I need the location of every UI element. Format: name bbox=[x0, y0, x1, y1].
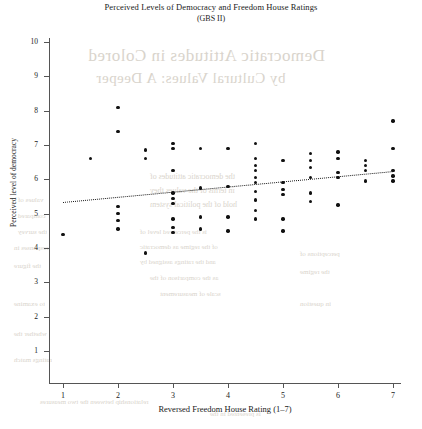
x-tick-label: 1 bbox=[51, 391, 75, 400]
data-point bbox=[336, 171, 339, 174]
data-point bbox=[336, 150, 339, 153]
plot-area bbox=[49, 38, 401, 383]
y-tick-label: 10 bbox=[4, 37, 38, 46]
data-point bbox=[199, 215, 202, 218]
data-point bbox=[364, 179, 367, 182]
data-point bbox=[116, 106, 119, 109]
data-point bbox=[144, 148, 147, 151]
data-point bbox=[199, 186, 202, 189]
x-tick-mark bbox=[173, 383, 174, 388]
ghost-left-6: to examine bbox=[14, 300, 45, 308]
y-tick-label: 9 bbox=[4, 71, 38, 80]
x-axis-line bbox=[49, 383, 401, 384]
chart-title: Perceived Levels of Democracy and Freedo… bbox=[0, 2, 422, 12]
y-tick-label: 3 bbox=[4, 277, 38, 286]
ghost-left-1: values of bbox=[18, 196, 43, 204]
data-point bbox=[171, 202, 174, 205]
x-tick-mark bbox=[283, 383, 284, 388]
ghost-left-7: whether the bbox=[14, 330, 47, 338]
x-tick-label: 4 bbox=[216, 391, 240, 400]
data-point bbox=[254, 209, 257, 212]
data-point bbox=[171, 147, 174, 150]
data-point bbox=[199, 227, 202, 230]
data-point bbox=[226, 147, 229, 150]
data-point bbox=[309, 191, 312, 194]
x-tick-mark bbox=[338, 383, 339, 388]
data-point bbox=[116, 227, 119, 230]
data-point bbox=[116, 130, 119, 133]
data-point bbox=[171, 217, 174, 220]
chart-subtitle: (GBS II) bbox=[0, 14, 422, 23]
data-point bbox=[281, 217, 284, 220]
y-tick-label: 2 bbox=[4, 312, 38, 321]
data-point bbox=[171, 226, 174, 229]
data-point bbox=[281, 159, 284, 162]
data-point bbox=[226, 185, 229, 188]
data-point bbox=[226, 215, 229, 218]
data-point bbox=[226, 229, 229, 232]
data-point bbox=[281, 229, 284, 232]
data-point bbox=[391, 147, 394, 150]
data-point bbox=[336, 176, 339, 179]
data-point bbox=[144, 251, 147, 254]
x-tick-label: 5 bbox=[271, 391, 295, 400]
data-point bbox=[116, 212, 119, 215]
x-tick-mark bbox=[228, 383, 229, 388]
data-point bbox=[281, 188, 284, 191]
y-axis-label: Perceived level of democracy bbox=[9, 103, 18, 263]
x-tick-mark bbox=[63, 383, 64, 388]
data-point bbox=[116, 219, 119, 222]
data-point bbox=[61, 233, 64, 236]
x-tick-label: 3 bbox=[161, 391, 185, 400]
x-tick-label: 7 bbox=[381, 391, 405, 400]
data-point bbox=[254, 198, 257, 201]
ghost-left-8: ratings match bbox=[14, 356, 52, 364]
data-point bbox=[391, 179, 394, 182]
ghost-left-5: the figure bbox=[14, 262, 41, 270]
x-tick-mark bbox=[118, 383, 119, 388]
x-axis-label: Reversed Freedom House Rating (1–7) bbox=[49, 404, 401, 414]
data-point bbox=[171, 191, 174, 194]
x-tick-mark bbox=[393, 383, 394, 388]
data-point bbox=[391, 119, 394, 122]
data-point bbox=[391, 174, 394, 177]
data-point bbox=[171, 231, 174, 234]
data-point bbox=[171, 142, 174, 145]
data-point bbox=[254, 217, 257, 220]
x-tick-label: 2 bbox=[106, 391, 130, 400]
data-point bbox=[171, 197, 174, 200]
ghost-left-3: the survey bbox=[18, 228, 47, 236]
chart-figure: Democratic Attitudes in Colored by Cultu… bbox=[0, 0, 422, 429]
x-tick-label: 6 bbox=[326, 391, 350, 400]
data-point bbox=[336, 203, 339, 206]
y-tick-label: 1 bbox=[4, 346, 38, 355]
